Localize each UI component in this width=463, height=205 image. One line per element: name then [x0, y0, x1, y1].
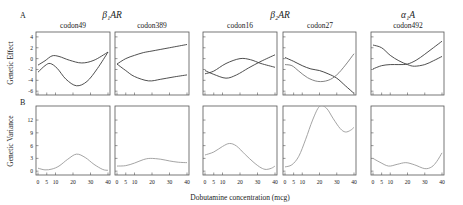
plot-frame	[115, 106, 189, 175]
y-axis-label-genetic-variance: Genetic Variance	[6, 115, 15, 167]
x-axis-label: Dobutamine concentration (mcg)	[190, 193, 290, 202]
y-tick-label: -4	[28, 77, 33, 83]
x-tick-label: 0	[37, 179, 40, 185]
plot-frame	[371, 106, 444, 175]
y-tick-label: 0	[30, 56, 33, 62]
panel-variance-3: 0510203040	[283, 106, 357, 185]
panel-variance-0: 0369120510203040	[27, 106, 111, 185]
plot-frame	[283, 106, 356, 175]
y-axis-label-genetic-effect: Genetic Effect	[6, 40, 15, 84]
x-tick-label: 20	[70, 179, 76, 185]
y-tick-label: 6	[30, 143, 33, 149]
x-tick-label: 20	[317, 179, 323, 185]
y-tick-label: -6	[28, 88, 33, 94]
x-tick-label: 5	[124, 179, 127, 185]
panel-variance-2: 0510203040	[203, 106, 278, 185]
plot-frame	[203, 32, 277, 95]
plot-frame	[115, 32, 189, 95]
x-tick-label: 30	[255, 179, 261, 185]
group-title-beta2: β₂AR	[269, 10, 290, 20]
plot-panels: 420-2-4-60369120510203040051020304005102…	[27, 32, 445, 185]
codon-title-27: codon27	[307, 21, 333, 30]
panel-variance-4: 0510203040	[371, 106, 445, 185]
y-tick-label: 4	[30, 34, 33, 40]
plot-frame	[36, 106, 110, 175]
x-tick-label: 0	[204, 179, 207, 185]
group-title-alpha1a: α₁A	[401, 10, 415, 20]
panel-effect-2	[203, 32, 277, 95]
chart-canvas: A B β₁AR β₂AR α₁A codon49 codon389 codon…	[0, 0, 463, 205]
x-tick-label: 30	[334, 179, 340, 185]
codon-title-16: codon16	[227, 21, 253, 30]
panel-effect-0: 420-2-4-6	[28, 32, 110, 95]
x-tick-label: 10	[132, 179, 138, 185]
codon-title-49: codon49	[60, 21, 86, 30]
panel-effect-1	[115, 32, 189, 95]
x-tick-label: 40	[105, 179, 111, 185]
x-tick-label: 40	[184, 179, 190, 185]
x-tick-label: 30	[88, 179, 94, 185]
panel-variance-1: 0510203040	[115, 106, 190, 185]
x-tick-label: 10	[220, 179, 226, 185]
plot-frame	[36, 32, 110, 95]
x-tick-label: 5	[292, 179, 295, 185]
y-tick-label: 2	[30, 45, 33, 51]
x-tick-label: 20	[405, 179, 411, 185]
panel-effect-4	[371, 32, 444, 95]
group-title-beta1: β₁AR	[101, 10, 122, 20]
x-tick-label: 10	[53, 179, 59, 185]
panel-effect-3	[283, 32, 356, 95]
y-tick-label: 0	[30, 168, 33, 174]
x-tick-label: 5	[380, 179, 383, 185]
x-tick-label: 40	[351, 179, 357, 185]
x-tick-label: 20	[237, 179, 243, 185]
x-tick-label: 40	[272, 179, 278, 185]
panel-label-b: B	[20, 98, 25, 107]
x-tick-label: 0	[372, 179, 375, 185]
plot-frame	[203, 106, 277, 175]
panel-label-a: A	[20, 11, 26, 20]
y-tick-label: 12	[27, 117, 33, 123]
y-tick-label: 9	[30, 130, 33, 136]
x-tick-label: 5	[45, 179, 48, 185]
x-tick-label: 0	[284, 179, 287, 185]
y-tick-label: -2	[28, 66, 33, 72]
x-tick-label: 5	[212, 179, 215, 185]
x-tick-label: 20	[149, 179, 155, 185]
y-tick-label: 3	[30, 155, 33, 161]
codon-title-389: codon389	[137, 21, 167, 30]
x-tick-label: 30	[167, 179, 173, 185]
plot-frame	[371, 32, 444, 95]
x-tick-label: 10	[387, 179, 393, 185]
figure: A B β₁AR β₂AR α₁A codon49 codon389 codon…	[0, 0, 463, 205]
x-tick-label: 40	[439, 179, 445, 185]
x-tick-label: 10	[299, 179, 305, 185]
x-tick-label: 30	[422, 179, 428, 185]
codon-title-492: codon492	[393, 21, 423, 30]
x-tick-label: 0	[116, 179, 119, 185]
